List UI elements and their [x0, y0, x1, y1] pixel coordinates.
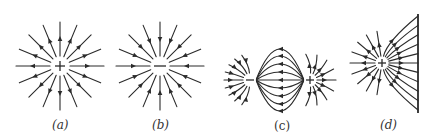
- arrowhead: [377, 78, 382, 83]
- field-line: [389, 54, 418, 62]
- arrowhead: [377, 42, 382, 47]
- panel-c-label: (c): [274, 119, 290, 133]
- panel-b-label: (b): [152, 118, 169, 132]
- field-line: [306, 87, 311, 106]
- arrowhead: [158, 37, 163, 42]
- field-line: [313, 86, 317, 105]
- arrowhead: [278, 54, 283, 59]
- panel-d-label: (d): [380, 118, 397, 132]
- arrowhead: [85, 64, 90, 69]
- arrowhead: [229, 85, 234, 89]
- arrowhead: [278, 86, 283, 91]
- panel-a-positive-charge: [16, 22, 104, 110]
- arrowhead: [361, 61, 366, 66]
- field-line: [225, 83, 243, 88]
- arrowhead: [184, 64, 189, 69]
- arrowhead: [228, 78, 233, 83]
- field-line: [256, 72, 304, 80]
- field-lines-figure: (a) (b) (c) (d): [0, 0, 432, 137]
- panel-b-negative-charge: [116, 22, 204, 110]
- field-line: [256, 80, 304, 88]
- arrowhead: [243, 58, 248, 63]
- arrowhead: [58, 36, 63, 41]
- panel-d-charge-near-plane: [350, 14, 418, 113]
- arrowhead: [278, 70, 283, 75]
- arrowhead: [243, 97, 248, 102]
- arrowhead: [158, 90, 163, 95]
- arrowhead: [322, 78, 327, 83]
- arrowhead: [317, 68, 322, 73]
- arrowhead: [399, 61, 404, 66]
- arrowhead: [278, 109, 283, 114]
- arrowhead: [131, 64, 136, 69]
- arrowhead: [278, 102, 283, 107]
- arrowhead: [30, 64, 35, 69]
- field-line: [389, 65, 418, 73]
- panel-a-label: (a): [52, 118, 69, 132]
- field-line: [225, 72, 243, 77]
- field-line: [306, 54, 311, 73]
- field-line: [384, 16, 418, 56]
- field-line: [313, 55, 317, 74]
- arrowhead: [362, 55, 367, 59]
- arrowhead: [278, 47, 283, 52]
- arrowhead: [362, 66, 367, 70]
- arrowhead: [278, 62, 283, 67]
- arrowhead: [312, 90, 316, 95]
- arrowhead: [278, 78, 283, 83]
- arrowhead: [307, 92, 312, 97]
- field-line: [384, 70, 418, 110]
- panel-c-dipole: [224, 47, 336, 114]
- arrowhead: [278, 94, 283, 99]
- arrowhead: [307, 63, 312, 68]
- arrowhead: [312, 64, 316, 69]
- arrowhead: [317, 87, 322, 92]
- arrowhead: [58, 91, 63, 96]
- arrowhead: [229, 70, 234, 74]
